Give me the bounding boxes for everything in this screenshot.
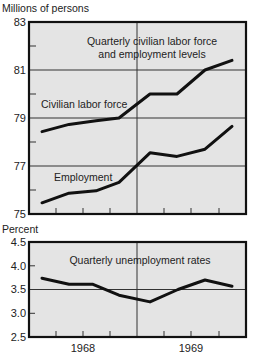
bottom-y-unit-label: Percent — [2, 223, 38, 235]
ytick-label-79: 79 — [14, 112, 26, 124]
ytick-label-2.5: 2.5 — [11, 331, 26, 343]
ytick-label-83: 83 — [14, 16, 26, 28]
ytick-label-4.0: 4.0 — [11, 260, 26, 272]
ytick-label-3.0: 3.0 — [11, 307, 26, 319]
ytick-label-77: 77 — [14, 160, 26, 172]
top-chart-title-line2: and employment levels — [98, 48, 205, 60]
ytick-label-81: 81 — [14, 64, 26, 76]
ytick-label-75: 75 — [14, 208, 26, 220]
top-y-unit-label: Millions of persons — [2, 2, 89, 14]
chart-figure: Millions of persons Quarterly civilian l… — [0, 0, 261, 359]
label-civilian-labor-force: Civilian labor force — [41, 98, 128, 110]
bottom-plot: Quarterly unemployment rates — [29, 242, 246, 337]
top-plot: Quarterly civilian labor force and emplo… — [29, 22, 246, 214]
bottom-chart-title: Quarterly unemployment rates — [69, 254, 210, 266]
xtick-label-1968: 1968 — [71, 342, 95, 354]
top-chart-title-line1: Quarterly civilian labor force — [87, 35, 217, 47]
xtick-label-1969: 1969 — [179, 342, 203, 354]
ytick-label-3.5: 3.5 — [11, 283, 26, 295]
ytick-label-4.5: 4.5 — [11, 236, 26, 248]
label-employment: Employment — [54, 171, 112, 183]
